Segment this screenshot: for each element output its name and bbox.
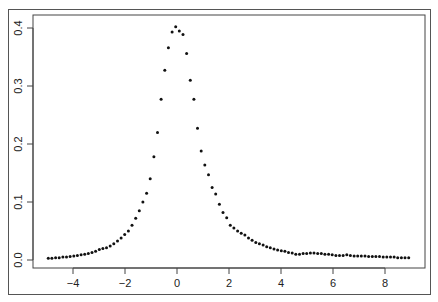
- data-point: [112, 242, 115, 245]
- data-point: [185, 52, 188, 55]
- x-tick-label: −4: [67, 277, 80, 289]
- data-point: [382, 256, 385, 259]
- data-point: [232, 227, 235, 230]
- y-tick-label: 0.3: [12, 78, 24, 93]
- data-point: [367, 255, 370, 258]
- data-point: [218, 203, 221, 206]
- data-point: [105, 246, 108, 249]
- x-tick-label: 0: [174, 277, 180, 289]
- data-point: [302, 252, 305, 255]
- data-point: [127, 230, 130, 233]
- data-point: [91, 251, 94, 254]
- data-point: [196, 127, 199, 130]
- data-point: [251, 239, 254, 242]
- y-tick-label: 0.4: [12, 20, 24, 35]
- data-point: [291, 252, 294, 255]
- data-point: [393, 256, 396, 259]
- data-point: [101, 247, 104, 250]
- data-point: [243, 234, 246, 237]
- data-point: [385, 256, 388, 259]
- data-point: [316, 252, 319, 255]
- data-point: [58, 256, 61, 259]
- data-point: [305, 252, 308, 255]
- data-point: [222, 211, 225, 214]
- data-point: [298, 253, 301, 256]
- data-point: [353, 254, 356, 257]
- data-point: [247, 237, 250, 240]
- y-tick-label: 0.0: [12, 252, 24, 267]
- data-point: [280, 249, 283, 252]
- data-point: [345, 253, 348, 256]
- data-point: [72, 254, 75, 257]
- y-tick-label: 0.1: [12, 194, 24, 209]
- data-point: [396, 256, 399, 259]
- data-point: [323, 253, 326, 256]
- data-point: [240, 232, 243, 235]
- data-point: [163, 69, 166, 72]
- data-point: [327, 253, 330, 256]
- data-point: [283, 250, 286, 253]
- data-point: [69, 255, 72, 258]
- x-tick-label: 8: [382, 277, 388, 289]
- data-point: [174, 25, 177, 28]
- data-point: [47, 257, 50, 260]
- data-point: [338, 254, 341, 257]
- data-point: [192, 98, 195, 101]
- data-point: [76, 254, 79, 257]
- data-point: [98, 248, 101, 251]
- data-point: [160, 98, 163, 101]
- data-point: [120, 237, 123, 240]
- data-point: [80, 253, 83, 256]
- data-point: [269, 246, 272, 249]
- data-point: [141, 201, 144, 204]
- x-tick-label: −2: [119, 277, 132, 289]
- x-tick-label: 4: [278, 277, 284, 289]
- data-point: [254, 241, 257, 244]
- data-point: [400, 256, 403, 259]
- x-tick-label: 2: [226, 277, 232, 289]
- data-point: [145, 192, 148, 195]
- data-point: [214, 192, 217, 195]
- data-point: [356, 254, 359, 257]
- data-point: [83, 253, 86, 256]
- data-point: [54, 256, 57, 259]
- data-points: [47, 25, 410, 259]
- data-point: [152, 155, 155, 158]
- data-point: [123, 233, 126, 236]
- data-point: [171, 31, 174, 34]
- data-point: [364, 254, 367, 257]
- data-point: [378, 255, 381, 258]
- data-point: [134, 217, 137, 220]
- x-tick-label: 6: [330, 277, 336, 289]
- data-point: [349, 254, 352, 257]
- data-point: [404, 256, 407, 259]
- data-point: [189, 79, 192, 82]
- data-point: [50, 257, 53, 260]
- data-point: [207, 173, 210, 176]
- data-point: [229, 224, 232, 227]
- data-point: [200, 150, 203, 153]
- data-point: [225, 216, 228, 219]
- data-point: [203, 163, 206, 166]
- data-point: [262, 243, 265, 246]
- data-point: [273, 248, 276, 251]
- data-point: [374, 255, 377, 258]
- data-point: [116, 239, 119, 242]
- data-point: [294, 253, 297, 256]
- data-point: [265, 245, 268, 248]
- data-point: [61, 256, 64, 259]
- scatter-chart: −4−202468 0.00.10.20.30.4: [0, 0, 438, 302]
- data-point: [258, 242, 261, 245]
- data-point: [287, 251, 290, 254]
- data-point: [360, 254, 363, 257]
- y-tick-label: 0.2: [12, 136, 24, 151]
- data-point: [331, 253, 334, 256]
- data-point: [342, 254, 345, 257]
- data-point: [65, 256, 68, 259]
- data-point: [236, 230, 239, 233]
- data-point: [309, 252, 312, 255]
- data-point: [334, 254, 337, 257]
- data-point: [131, 224, 134, 227]
- data-point: [371, 255, 374, 258]
- data-point: [320, 252, 323, 255]
